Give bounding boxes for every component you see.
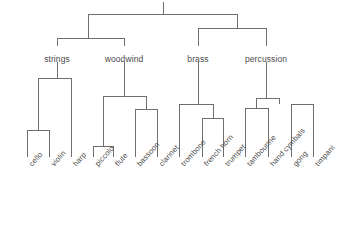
node-brass-percussion: [198, 14, 266, 46]
node-root: [88, 2, 237, 14]
node-strings-woodwind: [57, 14, 124, 46]
group-label-percussion: percussion: [245, 54, 287, 64]
group-label-woodwind: woodwind: [105, 54, 144, 64]
node-percussion: [245, 62, 313, 157]
node-strings: [27, 62, 71, 157]
node-woodwind: [93, 62, 157, 157]
group-label-strings: strings: [44, 54, 70, 64]
group-label-brass: brass: [187, 54, 208, 64]
